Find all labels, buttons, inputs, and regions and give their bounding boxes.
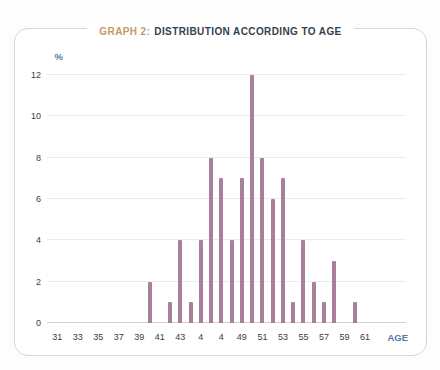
bar	[260, 158, 264, 323]
gridline	[47, 281, 406, 282]
gridline	[47, 239, 406, 240]
bar	[281, 178, 285, 323]
gridline	[47, 115, 406, 116]
bar	[322, 302, 326, 323]
bar	[199, 240, 203, 323]
x-tick-label: 33	[73, 332, 83, 342]
y-tick-label: 2	[19, 277, 41, 287]
gridline	[47, 74, 406, 75]
bar	[240, 178, 244, 323]
y-tick-label: 4	[19, 235, 41, 245]
x-axis-title: AGE	[387, 332, 408, 343]
bar	[209, 158, 213, 323]
y-tick-label: 0	[19, 318, 41, 328]
x-tick-label: 31	[52, 332, 62, 342]
x-tick-label: 41	[155, 332, 165, 342]
x-tick-label: 37	[114, 332, 124, 342]
y-tick-label: 10	[19, 111, 41, 121]
bar	[301, 240, 305, 323]
plot-area: 024681012	[47, 75, 406, 323]
x-tick-label: 4	[198, 332, 203, 342]
x-tick-label: 39	[134, 332, 144, 342]
bar	[312, 282, 316, 323]
bar	[230, 240, 234, 323]
bar	[332, 261, 336, 323]
x-tick-label: 49	[237, 332, 247, 342]
x-tick-label: 55	[298, 332, 308, 342]
y-tick-label: 6	[19, 194, 41, 204]
bar	[291, 302, 295, 323]
bar	[219, 178, 223, 323]
chart-title-text: DISTRIBUTION ACCORDING TO AGE	[154, 26, 341, 37]
gridline	[47, 157, 406, 158]
bar	[148, 282, 152, 323]
x-tick-label: 53	[278, 332, 288, 342]
x-tick-label: 59	[339, 332, 349, 342]
bar	[250, 75, 254, 323]
chart-title-prefix: GRAPH 2:	[99, 26, 150, 37]
chart-title-pill: GRAPH 2:DISTRIBUTION ACCORDING TO AGE	[87, 24, 353, 39]
y-axis-unit-label: %	[23, 51, 63, 62]
x-tick-label: 57	[319, 332, 329, 342]
age-distribution-chart: % 024681012 AGE 313335373941434449515355…	[23, 51, 414, 345]
chart-title: GRAPH 2:DISTRIBUTION ACCORDING TO AGE	[15, 21, 426, 39]
x-tick-label: 4	[219, 332, 224, 342]
bar	[168, 302, 172, 323]
y-tick-label: 12	[19, 70, 41, 80]
x-tick-label: 61	[360, 332, 370, 342]
bar	[271, 199, 275, 323]
bar	[189, 302, 193, 323]
x-tick-label: 35	[93, 332, 103, 342]
y-tick-label: 8	[19, 153, 41, 163]
x-tick-label: 43	[175, 332, 185, 342]
gridline	[47, 198, 406, 199]
bar	[353, 302, 357, 323]
x-tick-label: 51	[257, 332, 267, 342]
chart-card: GRAPH 2:DISTRIBUTION ACCORDING TO AGE % …	[14, 28, 427, 356]
bar	[178, 240, 182, 323]
x-axis: AGE 313335373941434449515355575961	[47, 327, 406, 345]
